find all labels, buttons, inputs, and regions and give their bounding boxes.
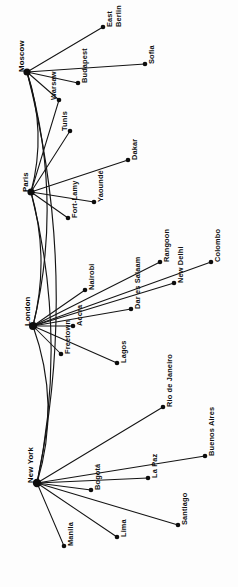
hub-label-newyork: New York <box>26 446 35 483</box>
node-label-manila: Manila <box>66 521 75 546</box>
node-label-lima: Lima <box>119 518 128 537</box>
hub-label-moscow: Moscow <box>17 40 26 72</box>
node-label-yaounde: Yaoundé <box>96 170 105 202</box>
node-label-colombo: Colombo <box>213 229 222 262</box>
node-label-santiago: Santiago <box>180 492 189 525</box>
spoke-edge-moscow-east-berlin <box>27 27 103 72</box>
trunk-edge-moscow-newyork <box>27 72 56 483</box>
node-label-sofia: Sofia <box>147 44 156 64</box>
node-label-bogota: Bogotá <box>93 463 102 490</box>
node-label-dar-es-salaam: Dar es Salaam <box>133 256 142 309</box>
node-label-fort-lamy: Fort-Lamy <box>70 180 79 218</box>
node-label-accra: Accra <box>75 304 84 326</box>
node-label-rangoon: Rangoon <box>162 229 171 262</box>
spoke-edge-layer <box>27 27 211 546</box>
spoke-edge-paris-yaounde <box>31 192 94 202</box>
node-label-nairobi: Nairobi <box>87 263 96 290</box>
node-label-budapest: Budapest <box>80 48 89 83</box>
spoke-edge-london-new-delhi <box>33 283 174 326</box>
node-label-freetown: Freetown <box>63 320 72 354</box>
spoke-edge-newyork-santiago <box>37 483 178 525</box>
node-label-rio-de-janeiro: Rio de Janeiro <box>165 354 174 407</box>
network-canvas: EastBerlinSofiaBudapestWarsawTunisDakarY… <box>0 0 238 587</box>
label-layer: EastBerlinSofiaBudapestWarsawTunisDakarY… <box>17 5 222 546</box>
node-label-tunis: Tunis <box>60 111 69 131</box>
node-label-buenos-aires: Buenos Aires <box>207 407 216 456</box>
trunk-edge-moscow-london <box>27 72 47 326</box>
trunk-edge-london-newyork <box>33 326 48 483</box>
node-label-la-paz: La Paz <box>150 454 159 478</box>
node-label-new-delhi: New Delhi <box>176 246 185 283</box>
node-label-warsaw: Warsaw <box>49 71 58 100</box>
spoke-edge-paris-warsaw <box>31 100 59 192</box>
network-diagram: EastBerlinSofiaBudapestWarsawTunisDakarY… <box>0 0 238 587</box>
node-label-east-berlin-line1: East <box>105 10 114 27</box>
node-label-lagos: Lagos <box>119 340 128 363</box>
hub-label-paris: Paris <box>21 172 30 192</box>
trunk-edge-paris-newyork <box>31 192 51 483</box>
trunk-edge-layer <box>27 72 56 483</box>
node-label-east-berlin-line2: Berlin <box>114 5 123 27</box>
spoke-edge-london-lagos <box>33 326 117 363</box>
node-label-dakar: Dakar <box>130 139 139 160</box>
hub-label-london: London <box>23 296 32 326</box>
